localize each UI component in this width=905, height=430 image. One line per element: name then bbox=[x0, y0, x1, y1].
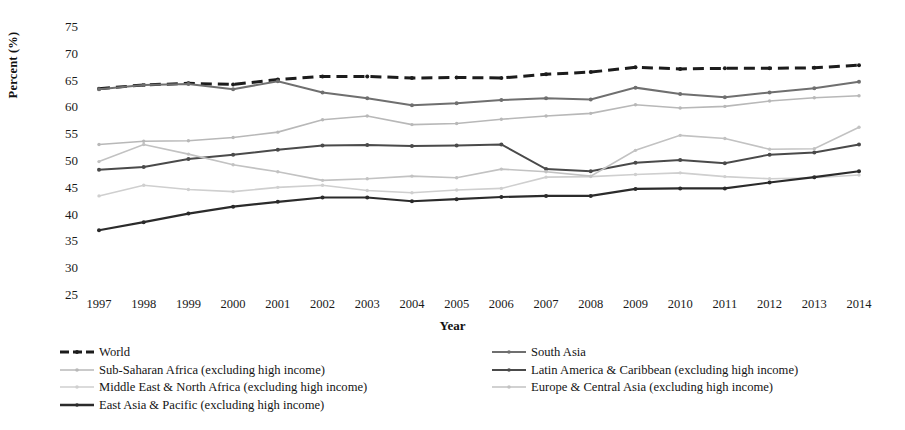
data-point bbox=[276, 148, 280, 152]
series-6 bbox=[97, 126, 860, 182]
data-point bbox=[410, 144, 414, 148]
data-point bbox=[186, 157, 190, 161]
data-point bbox=[97, 143, 100, 146]
legend-item[interactable]: Europe & Central Asia (excluding high in… bbox=[492, 381, 773, 394]
x-axis-tick-2012: 2012 bbox=[757, 297, 782, 312]
y-axis-tick-40: 40 bbox=[48, 207, 78, 220]
data-point bbox=[768, 66, 772, 70]
data-point bbox=[142, 140, 145, 143]
data-point bbox=[813, 96, 816, 99]
data-point bbox=[410, 103, 414, 107]
legend-item[interactable]: Sub-Saharan Africa (excluding high incom… bbox=[60, 364, 325, 377]
legend-line-icon bbox=[60, 399, 94, 411]
y-axis-tick-70: 70 bbox=[48, 46, 78, 59]
data-point bbox=[678, 67, 682, 71]
data-point bbox=[321, 144, 325, 148]
data-point bbox=[678, 92, 682, 96]
data-point bbox=[321, 118, 324, 121]
x-axis-tick-1997: 1997 bbox=[87, 297, 112, 312]
data-point bbox=[455, 176, 458, 179]
y-axis-tick-30: 30 bbox=[48, 261, 78, 274]
data-point bbox=[142, 183, 145, 186]
series-5 bbox=[97, 142, 861, 173]
y-axis-tick-35: 35 bbox=[48, 234, 78, 247]
data-point bbox=[768, 99, 771, 102]
y-axis-tick-55: 55 bbox=[48, 127, 78, 140]
data-point bbox=[410, 123, 413, 126]
series-line bbox=[99, 96, 859, 145]
legend-line-icon bbox=[60, 364, 94, 376]
x-axis-tick-2003: 2003 bbox=[355, 297, 380, 312]
data-point bbox=[97, 87, 101, 91]
legend-label: East Asia & Pacific (excluding high inco… bbox=[99, 399, 324, 412]
data-point bbox=[589, 194, 593, 198]
legend-item[interactable]: East Asia & Pacific (excluding high inco… bbox=[60, 399, 324, 412]
data-point bbox=[276, 170, 279, 173]
legend-swatch-icon bbox=[492, 381, 526, 393]
x-axis-tick-2013: 2013 bbox=[802, 297, 827, 312]
data-point bbox=[276, 130, 279, 133]
data-point bbox=[723, 186, 727, 190]
x-axis-tick-2006: 2006 bbox=[489, 297, 514, 312]
legend-label: Europe & Central Asia (excluding high in… bbox=[531, 381, 773, 394]
legend-line-icon bbox=[60, 346, 94, 358]
data-point bbox=[410, 76, 414, 80]
x-axis-tick-2002: 2002 bbox=[310, 297, 335, 312]
y-axis-tick-25: 25 bbox=[48, 288, 78, 301]
legend-item[interactable]: Latin America & Caribbean (excluding hig… bbox=[492, 364, 798, 377]
legend-line-icon bbox=[60, 381, 94, 393]
data-point bbox=[678, 171, 681, 174]
legend-item[interactable]: South Asia bbox=[492, 346, 586, 359]
data-point bbox=[544, 72, 548, 76]
data-point bbox=[857, 169, 861, 173]
data-point bbox=[410, 199, 414, 203]
x-axis-tick-1999: 1999 bbox=[176, 297, 201, 312]
data-point bbox=[276, 186, 279, 189]
data-point bbox=[455, 144, 459, 148]
data-point bbox=[544, 96, 548, 100]
data-point bbox=[97, 194, 100, 197]
data-point bbox=[812, 175, 816, 179]
data-point bbox=[366, 114, 369, 117]
x-axis-tick-2004: 2004 bbox=[399, 297, 424, 312]
legend-item[interactable]: Middle East & North Africa (excluding hi… bbox=[60, 381, 367, 394]
legend-item[interactable]: World bbox=[60, 346, 130, 359]
data-point bbox=[499, 98, 503, 102]
data-point bbox=[499, 76, 503, 80]
data-point bbox=[97, 168, 101, 172]
data-point bbox=[544, 114, 547, 117]
data-point bbox=[410, 174, 413, 177]
legend-label: Latin America & Caribbean (excluding hig… bbox=[531, 364, 798, 377]
data-point bbox=[276, 200, 280, 204]
series-line bbox=[99, 171, 859, 230]
data-point bbox=[321, 74, 325, 78]
series-line bbox=[99, 127, 859, 180]
data-point bbox=[97, 228, 101, 232]
data-point bbox=[500, 118, 503, 121]
data-point bbox=[768, 153, 772, 157]
data-point bbox=[142, 83, 146, 87]
data-point bbox=[589, 97, 593, 101]
data-point bbox=[723, 161, 727, 165]
chart-figure: Percent (%) 7570656055504540353025 19971… bbox=[0, 0, 905, 430]
y-axis-tick-60: 60 bbox=[48, 100, 78, 113]
x-axis-tick-2005: 2005 bbox=[444, 297, 469, 312]
data-point bbox=[142, 220, 146, 224]
data-point bbox=[231, 87, 235, 91]
data-point bbox=[231, 163, 234, 166]
legend-swatch-icon bbox=[492, 364, 526, 376]
legend-label: Middle East & North Africa (excluding hi… bbox=[99, 381, 367, 394]
data-point bbox=[365, 96, 369, 100]
data-point bbox=[857, 142, 861, 146]
data-point bbox=[812, 86, 816, 90]
data-point bbox=[544, 194, 548, 198]
data-point bbox=[231, 136, 234, 139]
data-point bbox=[633, 65, 637, 69]
y-axis-tick-75: 75 bbox=[48, 20, 78, 33]
data-point bbox=[231, 205, 235, 209]
data-point bbox=[633, 86, 637, 90]
data-point bbox=[634, 173, 637, 176]
legend-swatch-icon bbox=[60, 364, 94, 376]
legend-line-icon bbox=[492, 346, 526, 358]
data-point bbox=[589, 174, 592, 177]
